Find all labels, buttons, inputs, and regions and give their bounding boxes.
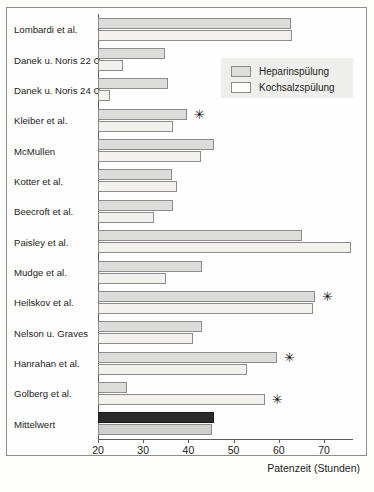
legend-item-kochsalz: Kochsalzspülung — [231, 79, 335, 95]
category-label: Beecroft et al. — [14, 206, 93, 217]
bar-heparin — [98, 169, 172, 180]
legend-swatch-heparin — [231, 66, 251, 77]
bar-kochsalz — [98, 60, 123, 71]
category-label: McMullen — [14, 145, 93, 156]
bar-kochsalz — [98, 212, 154, 223]
bar-heparin — [98, 139, 214, 150]
x-axis-tick — [279, 439, 280, 443]
significance-marker: ✳ — [322, 290, 333, 303]
category-label: Kleiber et al. — [14, 115, 93, 126]
category-label: Nelson u. Graves — [14, 327, 93, 338]
legend-label-kochsalz: Kochsalzspülung — [259, 82, 335, 93]
category-label: Hanrahan et al. — [14, 358, 93, 369]
legend-label-heparin: Heparinspülung — [259, 66, 329, 77]
bar-heparin — [98, 18, 291, 29]
legend-item-heparin: Heparinspülung — [231, 63, 329, 79]
significance-marker: ✳ — [272, 393, 283, 406]
category-label: Paisley et al. — [14, 236, 93, 247]
x-axis-tick-label: 40 — [183, 444, 195, 456]
category-label: Mudge et al. — [14, 267, 93, 278]
bar-kochsalz — [98, 121, 173, 132]
bar-heparin — [98, 230, 302, 241]
bar-heparin — [98, 291, 315, 302]
bar-heparin — [98, 321, 202, 332]
legend-swatch-kochsalz — [231, 82, 251, 93]
bar-heparin — [98, 48, 165, 59]
bar-kochsalz — [98, 90, 110, 101]
x-axis-tick-label: 50 — [228, 444, 240, 456]
x-axis-tick — [324, 439, 325, 443]
legend: Heparinspülung Kochsalzspülung — [221, 58, 353, 98]
bar-kochsalz — [98, 151, 201, 162]
bar-heparin — [98, 261, 202, 272]
category-label: Lombardi et al. — [14, 24, 93, 35]
category-label: Golberg et al. — [14, 388, 93, 399]
x-axis-tick — [143, 439, 144, 443]
x-axis-tick-label: 30 — [137, 444, 149, 456]
caption-strip — [8, 470, 366, 488]
x-axis-tick — [234, 439, 235, 443]
bar-kochsalz — [98, 364, 247, 375]
bar-kochsalz — [98, 303, 313, 314]
category-label: Mittelwert — [14, 418, 93, 429]
bar-heparin — [98, 200, 173, 211]
x-axis-tick-label: 70 — [318, 444, 330, 456]
bar-kochsalz — [98, 273, 166, 284]
bar-heparin — [98, 109, 187, 120]
x-axis-tick-label: 20 — [92, 444, 104, 456]
bar-kochsalz — [98, 333, 193, 344]
significance-marker: ✳ — [194, 108, 205, 121]
significance-marker: ✳ — [284, 351, 295, 364]
x-axis-tick — [188, 439, 189, 443]
x-axis-tick-label: 60 — [273, 444, 285, 456]
x-axis-tick — [98, 439, 99, 443]
category-label: Danek u. Noris 22 G — [14, 54, 93, 65]
bar-kochsalz — [98, 30, 292, 41]
bar-kochsalz — [98, 242, 351, 253]
bar-heparin — [98, 78, 168, 89]
bar-heparin — [98, 382, 127, 393]
category-label: Danek u. Noris 24 G — [14, 84, 93, 95]
bar-kochsalz — [98, 181, 177, 192]
bar-kochsalz — [98, 394, 265, 405]
category-label: Heilskov et al. — [14, 297, 93, 308]
bar-heparin — [98, 352, 277, 363]
bar-kochsalz — [98, 424, 212, 435]
category-label: Kotter et al. — [14, 175, 93, 186]
value-axis-line — [98, 439, 353, 440]
bar-heparin — [98, 412, 214, 423]
figure-container: 203040506070 Patenzeit (Stunden) Lombard… — [0, 0, 374, 492]
